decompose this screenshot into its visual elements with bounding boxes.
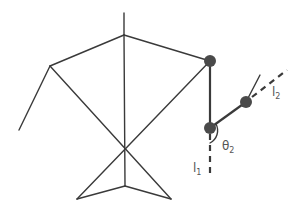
l1-label: l1 xyxy=(193,161,201,177)
shoulder-joint xyxy=(204,55,216,67)
cross-line-left-to-right xyxy=(50,66,171,199)
right-shoulder-line xyxy=(124,35,210,61)
elbow-joint xyxy=(204,122,216,134)
cross-line-right-to-left xyxy=(77,61,210,199)
left-shoulder-line xyxy=(50,35,124,66)
spine-line xyxy=(124,35,125,186)
l2-dashed-reference xyxy=(252,70,287,97)
wrist-joint xyxy=(240,96,252,108)
theta2-label: θ2 xyxy=(222,139,234,155)
stick-figure-diagram: θ2 l1 l2 xyxy=(0,0,299,211)
left-arm-line xyxy=(19,66,50,130)
right-foot-line xyxy=(125,186,171,199)
l2-label: l2 xyxy=(272,85,280,101)
